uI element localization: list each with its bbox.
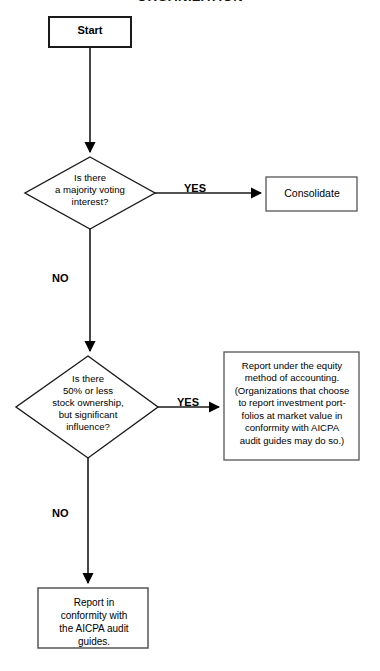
edge-label-yes-2: YES [177,396,199,408]
consolidate-node-label: Consolidate [266,187,358,199]
edge-label-no-2: NO [52,507,69,519]
decision2-node-label: Is there 50% or less stock ownership, bu… [26,373,150,433]
flowchart-graphics [0,0,380,671]
decision1-node-label: Is there a majority voting interest? [30,172,150,208]
edge-label-yes-1: YES [184,182,206,194]
flowchart-canvas: ORGANIZATION Start Is there a [0,0,380,671]
bottom-report-node-label: Report in conformity with the AICPA audi… [40,596,148,648]
start-node-label: Start [49,24,131,37]
equity-report-node-label: Report under the equity method of accoun… [227,360,357,447]
edge-label-no-1: NO [52,272,69,284]
